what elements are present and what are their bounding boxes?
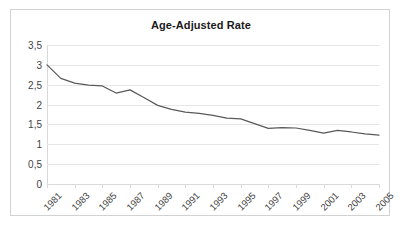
- x-axis-tick-label: 1989: [152, 190, 175, 213]
- series-polyline: [47, 65, 379, 135]
- plot-area: 00,511,522,533,5 19811983198519871989199…: [47, 45, 379, 184]
- y-axis-tick-label: 3,5: [28, 40, 42, 51]
- line-series-age-adjusted-rate: [47, 45, 379, 184]
- y-axis-tick-label: 2: [36, 99, 42, 110]
- x-axis-tick-label: 1987: [124, 190, 147, 213]
- x-axis-tick-label: 1981: [41, 190, 64, 213]
- x-axis-tick: [268, 184, 269, 188]
- x-axis-tick-label: 1991: [179, 190, 202, 213]
- x-axis-tick: [102, 184, 103, 188]
- y-axis-tick-label: 0,5: [28, 159, 42, 170]
- x-axis-tick: [213, 184, 214, 188]
- chart-title: Age-Adjusted Rate: [11, 19, 391, 31]
- x-axis-tick: [324, 184, 325, 188]
- x-axis-tick-label: 1993: [207, 190, 230, 213]
- y-axis-tick-label: 0: [36, 179, 42, 190]
- chart-frame: Age-Adjusted Rate 00,511,522,533,5 19811…: [10, 9, 390, 216]
- x-axis-tick-label: 1983: [69, 190, 92, 213]
- x-axis-tick-label: 2005: [373, 190, 396, 213]
- x-axis-tick: [130, 184, 131, 188]
- x-axis-tick-label: 1997: [262, 190, 285, 213]
- x-axis-tick-label: 1995: [235, 190, 258, 213]
- x-axis-tick: [379, 184, 380, 188]
- x-axis-tick: [241, 184, 242, 188]
- y-axis-tick-label: 1,5: [28, 119, 42, 130]
- y-axis-tick-label: 2,5: [28, 79, 42, 90]
- x-axis-tick-label: 1985: [96, 190, 119, 213]
- x-axis-tick-label: 1999: [290, 190, 313, 213]
- x-axis-tick-label: 2003: [345, 190, 368, 213]
- x-axis-tick: [158, 184, 159, 188]
- x-axis-tick: [47, 184, 48, 188]
- x-axis-tick: [185, 184, 186, 188]
- x-axis-tick: [75, 184, 76, 188]
- x-axis-tick: [351, 184, 352, 188]
- y-axis-tick-label: 1: [36, 139, 42, 150]
- x-axis-tick-label: 2001: [318, 190, 341, 213]
- x-axis-tick: [296, 184, 297, 188]
- y-axis-tick-label: 3: [36, 59, 42, 70]
